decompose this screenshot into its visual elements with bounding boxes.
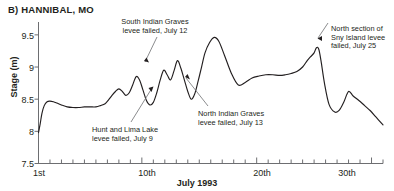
leader-line-north-indian-graves: [186, 78, 208, 106]
annotation-arrowheads: [144, 36, 322, 92]
arrowhead-hunt-and-lima-lake: [149, 87, 154, 93]
arrowhead-north-indian-graves: [185, 74, 190, 80]
y-tick-marks: [35, 35, 39, 164]
chart-panel: B) HANNIBAL, MO Stage (m) July 1993 7.5 …: [0, 0, 394, 191]
leader-line-sny-island-levee: [318, 23, 328, 38]
data-line-group: [39, 37, 384, 132]
arrowhead-sny-island-levee: [318, 36, 323, 41]
stage-hydrograph-line: [39, 37, 384, 132]
leader-lines: [131, 23, 328, 122]
chart-svg: [0, 0, 394, 191]
x-tick-marks: [39, 158, 384, 164]
